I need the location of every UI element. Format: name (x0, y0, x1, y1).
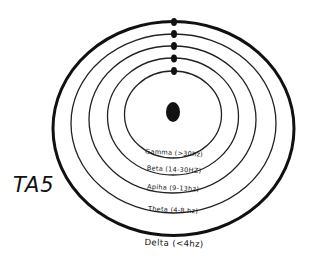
ring-dot-alpha (171, 42, 177, 50)
center-dot (166, 102, 180, 122)
ring-dot-gamma (171, 67, 177, 75)
brainwave-rings-diagram: Gamma (>30hz) Beta (14-30HZ) Apiha (9-13… (0, 0, 311, 265)
label-delta: Delta (<4hz) (144, 237, 204, 249)
side-label: TA5 (13, 173, 55, 197)
ring-dot-theta (171, 30, 177, 38)
ring-dot-delta (171, 18, 177, 26)
label-gamma: Gamma (>30hz) (145, 147, 203, 158)
label-theta: Theta (4-8 hz) (147, 205, 199, 216)
ring-dot-beta (171, 55, 177, 63)
